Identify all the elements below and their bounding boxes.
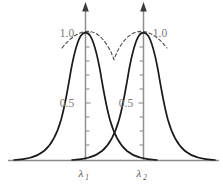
lambda-2-subscript: 2 — [143, 174, 147, 182]
spectral-resolution-figure: 1.0 0.5 1.0 0.5 λ 1 λ 2 — [0, 0, 223, 188]
lambda-2-axis-arrow-icon — [140, 2, 147, 12]
lambda-1-axis-arrow-icon — [82, 2, 89, 12]
left-half-value-label: 0.5 — [60, 97, 75, 109]
right-half-value-label: 0.5 — [119, 97, 134, 109]
left-peak-value-label: 1.0 — [60, 27, 75, 39]
lambda-1-symbol: λ — [78, 167, 84, 179]
lambda-1-subscript: 1 — [85, 174, 89, 182]
lambda-2-axis-label: λ 2 — [136, 167, 148, 182]
lambda-2-symbol: λ — [136, 167, 142, 179]
sum-envelope-curve — [62, 31, 167, 59]
lambda-1-axis-label: λ 1 — [78, 167, 89, 182]
plot-canvas: 1.0 0.5 1.0 0.5 λ 1 λ 2 — [0, 0, 223, 188]
right-peak-value-label: 1.0 — [153, 27, 168, 39]
